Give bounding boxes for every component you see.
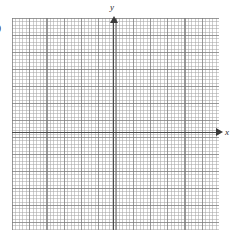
coordinate-grid-figure: x y 0 <box>0 0 235 242</box>
major-gridlines <box>12 18 219 230</box>
x-axis-label: x <box>225 128 229 137</box>
grid-plate <box>12 18 219 230</box>
y-axis-line <box>113 19 114 230</box>
clipped-edge-label: 0 <box>0 24 3 34</box>
y-axis-arrow-icon <box>110 16 118 23</box>
x-axis-line <box>12 132 220 133</box>
x-axis-arrow-icon <box>216 128 223 136</box>
y-axis-label: y <box>110 3 114 12</box>
